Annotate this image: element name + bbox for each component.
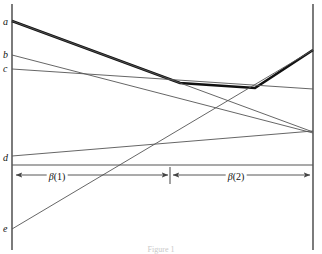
- figure-plot: [0, 0, 322, 254]
- figure-caption: Figure 1: [0, 245, 322, 254]
- series-group: [12, 21, 313, 229]
- beta-index: (2): [233, 171, 245, 182]
- axis-label-e: e: [3, 224, 7, 234]
- beta-index: (1): [54, 171, 66, 182]
- series-line-b: [12, 55, 313, 133]
- series-line-d: [12, 131, 313, 156]
- axis-label-c: c: [3, 64, 7, 74]
- axis-label-d: d: [3, 153, 8, 163]
- axis-label-b: b: [3, 50, 8, 60]
- figure-container: a b c d e β(1) β(2) Figure 1: [0, 0, 322, 254]
- series-upper-envelope: [12, 21, 313, 88]
- span-label-beta-2: β(2): [226, 172, 247, 182]
- axis-label-a: a: [3, 17, 8, 27]
- span-label-beta-1: β(1): [47, 172, 68, 182]
- axes-group: [12, 4, 313, 250]
